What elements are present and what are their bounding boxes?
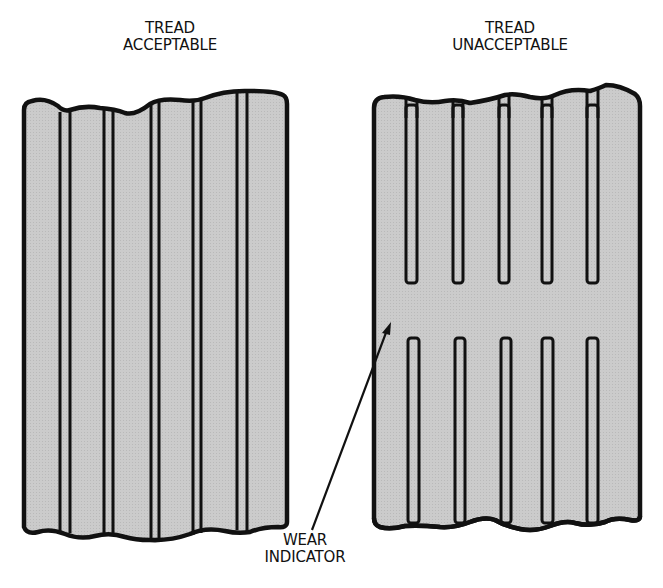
tread-diagram	[0, 0, 663, 588]
tread-unacceptable-illustration	[374, 85, 640, 530]
tread-acceptable-illustration	[24, 91, 287, 540]
